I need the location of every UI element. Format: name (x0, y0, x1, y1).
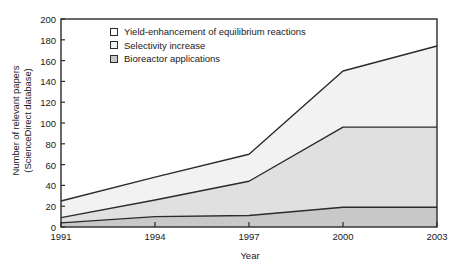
legend-item: Selectivity increase (110, 39, 306, 53)
legend-label: Yield-enhancement of equilibrium reactio… (124, 25, 306, 39)
legend-swatch-icon (110, 55, 118, 63)
chart-legend: Yield-enhancement of equilibrium reactio… (110, 25, 306, 66)
legend-swatch-icon (110, 41, 118, 49)
legend-item: Bioreactor applications (110, 52, 306, 66)
legend-label: Selectivity increase (124, 39, 205, 53)
legend-label: Bioreactor applications (124, 52, 220, 66)
chart-figure: Number of relevant papers (ScienceDirect… (0, 0, 472, 271)
legend-item: Yield-enhancement of equilibrium reactio… (110, 25, 306, 39)
legend-swatch-icon (110, 28, 118, 36)
